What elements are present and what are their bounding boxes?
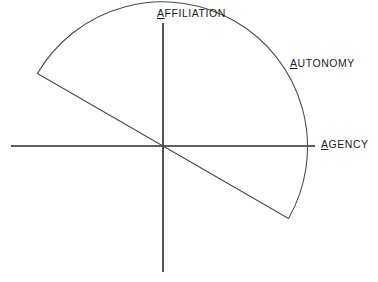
label-affiliation-lead: A [157,7,165,19]
diagram-page: AFFILIATION AUTONOMY AGENCY [0,0,378,282]
label-agency-rest: GENCY [329,138,369,150]
wedge-sector-outline [37,2,307,219]
label-agency-lead: A [321,138,329,150]
label-affiliation: AFFILIATION [157,8,226,19]
label-autonomy-lead: A [290,57,298,69]
label-autonomy-rest: UTONOMY [298,57,355,69]
label-affiliation-rest: FFILIATION [165,7,226,19]
label-autonomy: AUTONOMY [290,58,355,69]
label-agency: AGENCY [321,139,369,150]
